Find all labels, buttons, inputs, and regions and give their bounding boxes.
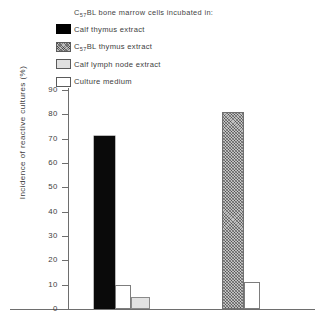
chart-legend: C57BL bone marrow cells incubated in: Ca… bbox=[56, 8, 296, 92]
bar-chart-plot: 0102030405060708090 Incidence of reactiv… bbox=[0, 88, 325, 328]
y-tick-mark bbox=[62, 236, 69, 237]
y-tick-label: 0 bbox=[18, 304, 58, 313]
legend-swatch-calf-lymph-node-extract bbox=[56, 59, 71, 69]
legend-swatch-calf-thymus-extract bbox=[56, 24, 71, 34]
y-tick-mark bbox=[62, 285, 69, 286]
legend-swatch-culture-medium bbox=[56, 77, 71, 87]
y-tick-mark bbox=[62, 163, 69, 164]
bar bbox=[131, 297, 150, 309]
legend-item: Culture medium bbox=[56, 75, 296, 89]
y-tick-mark bbox=[62, 187, 69, 188]
bar bbox=[115, 285, 131, 309]
y-axis-line bbox=[68, 88, 69, 310]
y-tick-label: 20 bbox=[18, 255, 58, 264]
legend-label-calf-thymus-extract: Calf thymus extract bbox=[74, 25, 145, 34]
legend-swatch-c57bl-thymus-extract bbox=[56, 42, 71, 52]
legend-title: C57BL bone marrow cells incubated in: bbox=[74, 8, 296, 17]
legend-item: Calf thymus extract bbox=[56, 22, 296, 36]
y-tick-label: 10 bbox=[18, 280, 58, 289]
y-tick-mark bbox=[62, 114, 69, 115]
legend-label-calf-lymph-node-extract: Calf lymph node extract bbox=[74, 60, 161, 69]
y-tick-mark bbox=[62, 260, 69, 261]
y-tick-label: 30 bbox=[18, 231, 58, 240]
y-axis-title: Incidence of reactive cultures (%) bbox=[18, 43, 27, 223]
legend-item: Calf lymph node extract bbox=[56, 57, 296, 71]
legend-item: C57BL thymus extract bbox=[56, 40, 296, 54]
legend-label-c57bl-thymus-extract: C57BL thymus extract bbox=[74, 42, 152, 51]
bar bbox=[244, 282, 260, 309]
legend-label-culture-medium: Culture medium bbox=[74, 77, 132, 86]
y-tick-mark bbox=[62, 212, 69, 213]
bar bbox=[222, 112, 244, 309]
y-tick-mark bbox=[62, 90, 69, 91]
bar bbox=[94, 136, 115, 309]
y-tick-mark bbox=[62, 309, 69, 310]
y-tick-mark bbox=[62, 139, 69, 140]
